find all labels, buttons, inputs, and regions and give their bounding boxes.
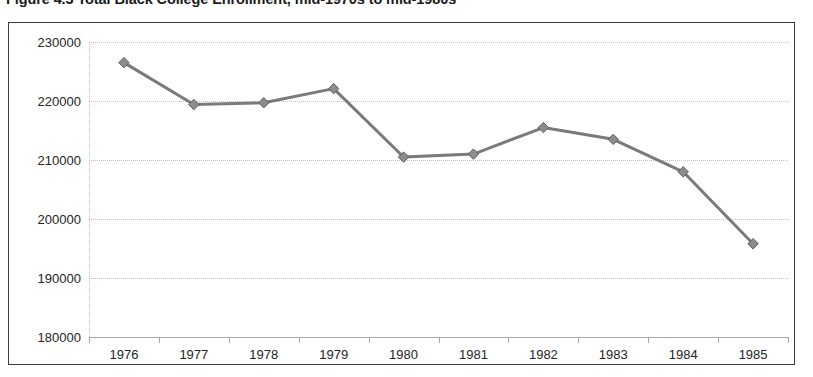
data-point-1983 bbox=[608, 134, 618, 144]
x-tick-5 bbox=[439, 337, 440, 343]
x-axis-tick-labels: 1976197719781979198019811982198319841985 bbox=[89, 345, 788, 367]
x-tick-label-1985: 1985 bbox=[718, 345, 788, 367]
data-point-1982 bbox=[538, 122, 548, 132]
x-tick-10 bbox=[788, 337, 789, 343]
x-tick-label-1978: 1978 bbox=[229, 345, 299, 367]
x-tick-label-1979: 1979 bbox=[299, 345, 369, 367]
x-tick-1 bbox=[159, 337, 160, 343]
x-tick-label-1980: 1980 bbox=[369, 345, 439, 367]
y-tick-label-190000: 190000 bbox=[38, 271, 81, 286]
y-tick-label-230000: 230000 bbox=[38, 35, 81, 50]
data-point-1981 bbox=[468, 149, 478, 159]
series-line-chart bbox=[89, 42, 788, 337]
figure-caption: Figure 4.3 Total Black College Enrollmen… bbox=[6, 0, 806, 11]
plot-area bbox=[89, 42, 788, 337]
x-tick-label-1982: 1982 bbox=[508, 345, 578, 367]
x-tick-label-1976: 1976 bbox=[89, 345, 159, 367]
x-tick-6 bbox=[508, 337, 509, 343]
x-tick-label-1984: 1984 bbox=[648, 345, 718, 367]
y-axis-tick-labels: 230000220000210000200000190000180000 bbox=[9, 23, 87, 366]
y-tick-label-210000: 210000 bbox=[38, 153, 81, 168]
chart-frame: 230000220000210000200000190000180000 197… bbox=[8, 22, 795, 365]
x-tick-label-1983: 1983 bbox=[578, 345, 648, 367]
x-tick-label-1981: 1981 bbox=[439, 345, 509, 367]
y-tick-label-200000: 200000 bbox=[38, 212, 81, 227]
x-tick-label-1977: 1977 bbox=[159, 345, 229, 367]
y-tick-label-180000: 180000 bbox=[38, 330, 81, 345]
x-tick-3 bbox=[299, 337, 300, 343]
x-tick-2 bbox=[229, 337, 230, 343]
x-tick-4 bbox=[369, 337, 370, 343]
data-point-1978 bbox=[259, 98, 269, 108]
y-tick-label-220000: 220000 bbox=[38, 94, 81, 109]
x-tick-0 bbox=[89, 337, 90, 343]
x-tick-8 bbox=[648, 337, 649, 343]
series-line bbox=[124, 63, 753, 244]
x-tick-9 bbox=[718, 337, 719, 343]
x-tick-7 bbox=[578, 337, 579, 343]
